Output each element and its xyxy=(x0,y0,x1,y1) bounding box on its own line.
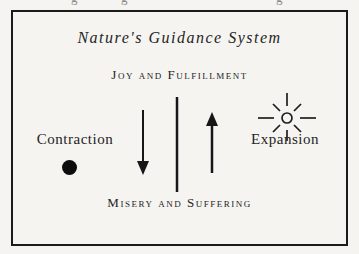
center-arrows-graphic xyxy=(130,90,230,200)
up-arrow-icon xyxy=(206,112,218,173)
down-arrow-icon xyxy=(137,110,149,175)
cropped-text-line: g g g xyxy=(0,0,359,5)
filled-circle-icon xyxy=(62,160,77,175)
cropped-text-fragment: g xyxy=(121,0,128,5)
cropped-text-fragment: g xyxy=(71,0,78,5)
bottom-label-misery-and-suffering: Misery and Suffering xyxy=(11,196,348,211)
top-label-joy-and-fulfillment: Joy and Fulfillment xyxy=(11,68,348,83)
diagram-title: Nature's Guidance System xyxy=(11,28,348,47)
right-label-expansion: Expansion xyxy=(235,131,335,148)
left-label-contraction: Contraction xyxy=(25,131,125,148)
book-page-diagram: g g g Nature's Guidance System Joy and F… xyxy=(0,0,359,254)
cropped-text-fragment: g xyxy=(276,0,283,5)
